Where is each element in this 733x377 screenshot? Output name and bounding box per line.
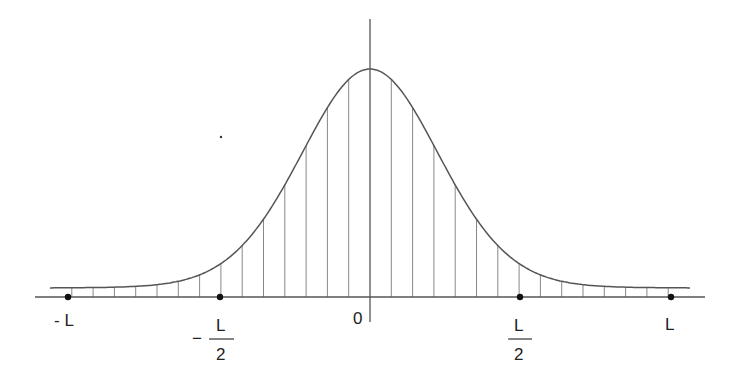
label-zero: 0 [353,309,362,328]
label-denominator: 2 [514,345,523,364]
stray-dot [220,136,222,138]
label-denominator: 2 [216,345,225,364]
label-L: L [665,315,674,334]
marker-dot-half-L [517,294,523,300]
marker-dot-L [668,294,674,300]
bell-curve-diagram: - L − L 2 0 L 2 L [0,0,733,377]
label-minus-L: - L [54,311,74,330]
label-numerator: L [216,316,225,335]
marker-dot-minus-half-L [217,294,223,300]
marker-dot-minus-L [65,294,71,300]
label-minus-half-L: − L 2 [192,316,234,364]
label-minus-sign: − [192,329,202,348]
label-numerator: L [514,316,523,335]
label-half-L: L 2 [508,316,532,364]
